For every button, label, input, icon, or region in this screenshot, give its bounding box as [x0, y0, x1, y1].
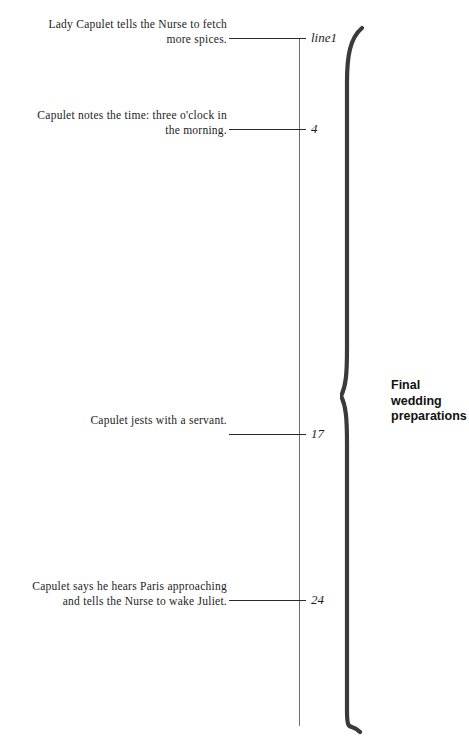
- event-description: Lady Capulet tells the Nurse to fetch mo…: [0, 17, 227, 46]
- event-description: Capulet says he hears Paris approaching …: [0, 579, 227, 608]
- group-brace-icon: [340, 22, 392, 738]
- event-leader-line: [229, 434, 299, 435]
- axis-tick: [293, 129, 306, 130]
- axis-tick: [293, 600, 306, 601]
- axis-tick-label: line1: [311, 31, 337, 44]
- timeline-figure: Lady Capulet tells the Nurse to fetch mo…: [0, 0, 469, 749]
- axis-tick: [293, 38, 306, 39]
- axis-tick: [293, 434, 306, 435]
- event-leader-line: [229, 38, 299, 39]
- event-leader-line: [229, 600, 299, 601]
- group-label: Final wedding preparations: [391, 378, 469, 425]
- axis-tick-label: 4: [311, 122, 318, 135]
- timeline-axis: [299, 38, 300, 726]
- event-description: Capulet notes the time: three o'clock in…: [0, 108, 227, 137]
- event-description: Capulet jests with a servant.: [0, 413, 227, 428]
- axis-tick-label: 24: [311, 593, 324, 606]
- event-leader-line: [229, 129, 299, 130]
- axis-tick-label: 17: [311, 427, 324, 440]
